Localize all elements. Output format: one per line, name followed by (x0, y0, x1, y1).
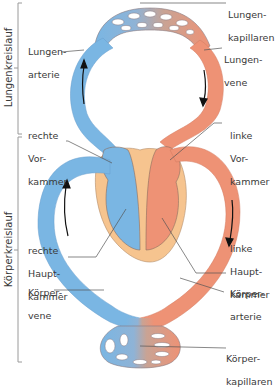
pulmonary-artery (70, 38, 124, 160)
side-label-pulmonary: Lungenkreislauf (3, 23, 14, 113)
bracket-pulmonary (14, 3, 22, 134)
label-koerperkapillaren: Körper- kapillaren (226, 341, 273, 391)
label-koerperarterie: Körper- arterie (230, 276, 264, 334)
pulmonary-vein (160, 40, 223, 150)
label-linke-vorkammer: linke Vor- kammer (230, 118, 269, 199)
label-lungenarterie: Lungen- arterie (28, 34, 67, 92)
label-rechte-vorkammer: rechte Vor- kammer (28, 118, 67, 199)
label-lungenvene: Lungen- vene (224, 42, 263, 100)
side-label-systemic: Körperkreislauf (3, 205, 14, 295)
bracket-systemic (14, 137, 22, 362)
label-koerpervene: Körper- vene (28, 275, 62, 333)
lung-capillaries (95, 8, 210, 52)
